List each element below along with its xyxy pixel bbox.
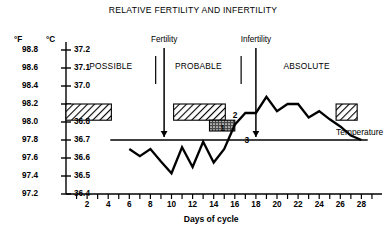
- y-tick-label-celsius: 36.4: [74, 190, 100, 198]
- x-tick-label: 6: [121, 201, 137, 209]
- curve-marker-1: 1: [220, 124, 225, 132]
- annotation-arrowhead: [161, 131, 168, 137]
- x-tick-label: 14: [206, 201, 222, 209]
- y-tick-label-fahrenheit: 98.4: [12, 82, 38, 90]
- y-tick-label-fahrenheit: 98.2: [12, 100, 38, 108]
- x-tick-label: 24: [311, 201, 327, 209]
- x-tick-label: 8: [142, 201, 158, 209]
- y-tick-label-celsius: 36.6: [74, 154, 100, 162]
- x-tick-label: 22: [290, 201, 306, 209]
- x-tick-label: 10: [164, 201, 180, 209]
- y-tick-label-celsius: 36.5: [74, 172, 100, 180]
- annotation-label-infertility: Infertility: [230, 36, 282, 44]
- x-tick-label: 18: [248, 201, 264, 209]
- curve-marker-3: 3: [244, 136, 249, 144]
- x-tick-label: 16: [227, 201, 243, 209]
- chart-svg: [0, 0, 386, 234]
- y-tick-label-celsius: 36.8: [74, 118, 100, 126]
- y-tick-label-fahrenheit: 98.8: [12, 46, 38, 54]
- y-tick-label-fahrenheit: 98.0: [12, 118, 38, 126]
- y-tick-label-fahrenheit: 97.6: [12, 154, 38, 162]
- x-tick-label: 26: [332, 201, 348, 209]
- x-tick-label: 12: [185, 201, 201, 209]
- y-tick-label-celsius: 37.2: [74, 46, 100, 54]
- legend-swatch: [336, 104, 357, 120]
- y-tick-label-fahrenheit: 97.4: [12, 172, 38, 180]
- zone-label-probable: PROBABLE: [172, 62, 224, 70]
- y-tick-label-fahrenheit: 97.2: [12, 190, 38, 198]
- zone-label-possible: POSSIBLE: [85, 62, 137, 70]
- x-axis-title: Days of cycle: [184, 215, 239, 224]
- legend-label: Temperature: [336, 128, 383, 136]
- x-tick-label: 2: [79, 201, 95, 209]
- plot-area: 98.837.298.637.198.437.098.298.036.897.8…: [0, 0, 386, 234]
- zone-label-absolute: ABSOLUTE: [281, 62, 333, 70]
- x-tick-label: 20: [269, 201, 285, 209]
- annotation-arrowhead: [253, 131, 260, 137]
- y-tick-label-celsius: 37.0: [74, 82, 100, 90]
- y-tick-label-fahrenheit: 98.6: [12, 64, 38, 72]
- x-tick-label: 4: [100, 201, 116, 209]
- fertility-temperature-chart: RELATIVE FERTILITY AND INFERTILITY °F °C…: [0, 0, 386, 234]
- curve-marker-2: 2: [233, 111, 238, 119]
- y-tick-label-celsius: 36.7: [74, 136, 100, 144]
- annotation-label-fertility: Fertility: [138, 36, 190, 44]
- hatched-band-mid: [174, 104, 226, 120]
- x-tick-label: 28: [353, 201, 369, 209]
- y-tick-label-fahrenheit: 97.8: [12, 136, 38, 144]
